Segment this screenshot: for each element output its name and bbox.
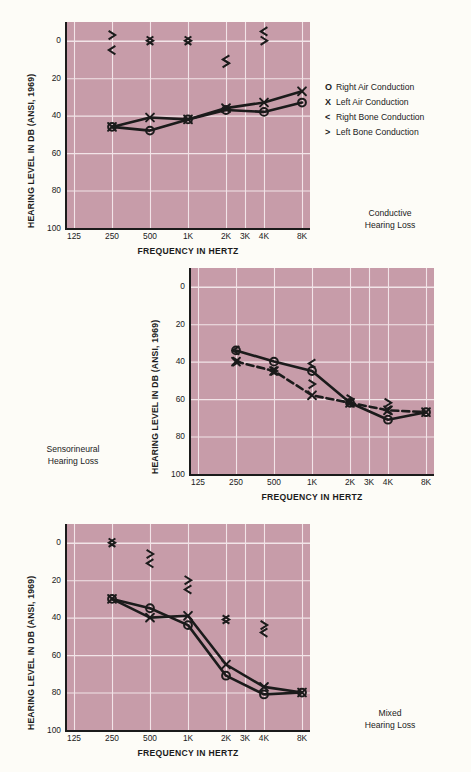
x-tick-label: 4K bbox=[251, 734, 277, 742]
x-tick-label: 1K bbox=[299, 478, 325, 486]
legend: O Right Air Conduction X Left Air Conduc… bbox=[325, 80, 424, 140]
x-tick-label: 250 bbox=[99, 734, 125, 742]
y-tick-label: 80 bbox=[36, 688, 61, 696]
right-angle-left-bone-icon: > bbox=[325, 125, 336, 140]
x-axis-label: FREQUENCY IN HERTZ bbox=[66, 246, 310, 256]
x-tick-label: 125 bbox=[185, 478, 211, 486]
x-axis-label: FREQUENCY IN HERTZ bbox=[190, 492, 434, 502]
axis-spine bbox=[65, 524, 67, 731]
plot-area-sensorineural bbox=[190, 268, 434, 474]
caption-line-2: Hearing Loss bbox=[330, 720, 450, 732]
y-tick-label: 100 bbox=[36, 224, 61, 232]
axis-spine bbox=[65, 730, 310, 732]
axis-spine bbox=[65, 22, 67, 229]
axis-spine bbox=[189, 474, 434, 476]
x-tick-label: 1K bbox=[175, 734, 201, 742]
legend-item-left-bone: > Left Bone Conduction bbox=[325, 125, 424, 140]
audiogram-mixed: HEARING LEVEL IN DB (ANSI, 1969) FREQUEN… bbox=[0, 520, 471, 772]
y-axis-label: HEARING LEVEL IN DB (ANSI, 1969) bbox=[26, 74, 36, 228]
x-tick-label: 500 bbox=[137, 232, 163, 240]
y-tick-label: 100 bbox=[36, 726, 61, 734]
x-tick-label: 250 bbox=[99, 232, 125, 240]
y-tick-label: 20 bbox=[36, 576, 61, 584]
y-tick-label: 0 bbox=[160, 282, 185, 290]
y-tick-label: 80 bbox=[36, 186, 61, 194]
y-tick-label: 0 bbox=[36, 36, 61, 44]
y-tick-label: 40 bbox=[36, 613, 61, 621]
left-angle-right-bone-icon: < bbox=[325, 110, 336, 125]
legend-item-left-air: X Left Air Conduction bbox=[325, 95, 424, 110]
legend-label: Right Air Conduction bbox=[336, 81, 414, 95]
caption-line-2: Hearing Loss bbox=[330, 220, 450, 232]
cross-left-air-icon: X bbox=[325, 95, 336, 110]
y-tick-label: 0 bbox=[36, 538, 61, 546]
legend-label: Left Air Conduction bbox=[336, 96, 409, 110]
axis-spine bbox=[189, 268, 191, 475]
y-tick-label: 20 bbox=[160, 320, 185, 328]
x-tick-label: 250 bbox=[223, 478, 249, 486]
y-axis-label: HEARING LEVEL IN DB (ANSI, 1969) bbox=[150, 320, 160, 474]
y-tick-label: 60 bbox=[36, 651, 61, 659]
caption-mixed: Mixed Hearing Loss bbox=[330, 708, 450, 731]
legend-label: Right Bone Conduction bbox=[336, 111, 424, 125]
plot-area-mixed bbox=[66, 524, 310, 730]
plot-canvas bbox=[190, 268, 434, 474]
caption-conductive: Conductive Hearing Loss bbox=[330, 208, 450, 231]
y-axis-label: HEARING LEVEL IN DB (ANSI, 1969) bbox=[26, 576, 36, 730]
x-tick-label: 125 bbox=[61, 232, 87, 240]
plot-svg bbox=[190, 268, 434, 474]
caption-sensorineural: Sensorineural Hearing Loss bbox=[18, 444, 128, 467]
axis-spine bbox=[65, 228, 310, 230]
legend-item-right-bone: < Right Bone Conduction bbox=[325, 110, 424, 125]
legend-label: Left Bone Conduction bbox=[336, 126, 419, 140]
caption-line-1: Conductive bbox=[330, 208, 450, 220]
x-axis-label: FREQUENCY IN HERTZ bbox=[66, 748, 310, 758]
plot-area-conductive bbox=[66, 22, 310, 228]
y-tick-label: 40 bbox=[160, 357, 185, 365]
plot-canvas bbox=[66, 524, 310, 730]
x-tick-label: 500 bbox=[261, 478, 287, 486]
x-tick-label: 4K bbox=[375, 478, 401, 486]
x-tick-label: 1K bbox=[175, 232, 201, 240]
legend-item-right-air: O Right Air Conduction bbox=[325, 80, 424, 95]
plot-svg bbox=[66, 22, 310, 228]
circle-right-air-icon: O bbox=[325, 80, 336, 95]
caption-line-1: Mixed bbox=[330, 708, 450, 720]
plot-canvas bbox=[66, 22, 310, 228]
caption-line-2: Hearing Loss bbox=[18, 456, 128, 468]
audiogram-sensorineural: HEARING LEVEL IN DB (ANSI, 1969) FREQUEN… bbox=[0, 258, 471, 520]
x-tick-label: 4K bbox=[251, 232, 277, 240]
y-tick-label: 100 bbox=[160, 470, 185, 478]
plot-svg bbox=[66, 524, 310, 730]
y-tick-label: 60 bbox=[160, 395, 185, 403]
y-tick-label: 80 bbox=[160, 432, 185, 440]
x-tick-label: 125 bbox=[61, 734, 87, 742]
x-tick-label: 500 bbox=[137, 734, 163, 742]
y-tick-label: 60 bbox=[36, 149, 61, 157]
x-tick-label: 8K bbox=[289, 734, 315, 742]
y-tick-label: 40 bbox=[36, 111, 61, 119]
x-tick-label: 8K bbox=[413, 478, 439, 486]
x-tick-label: 8K bbox=[289, 232, 315, 240]
y-tick-label: 20 bbox=[36, 74, 61, 82]
caption-line-1: Sensorineural bbox=[18, 444, 128, 456]
